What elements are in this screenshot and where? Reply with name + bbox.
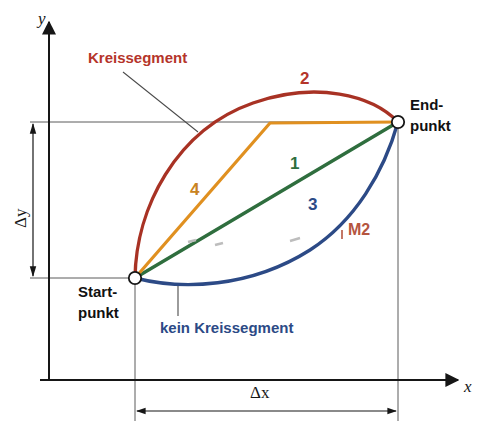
start-point-label-line1: Start- [78, 284, 117, 300]
m2-center-label: M2 [348, 222, 370, 239]
delta-x-label: Δx [250, 384, 269, 402]
construction-lines [30, 122, 398, 421]
path-number-4: 4 [190, 181, 199, 199]
path-number-1: 1 [290, 155, 299, 173]
path-number-3: 3 [308, 196, 317, 214]
end-point-label-line2: punkt [410, 118, 451, 134]
end-point-marker [392, 116, 404, 128]
y-axis-label: y [38, 10, 46, 28]
start-point-marker [129, 272, 141, 284]
diagram-vector-layer [0, 0, 489, 428]
diagram-canvas: y x Δy Δx Kreissegment kein Kreissegment… [0, 0, 489, 428]
kreissegment-label: Kreissegment [88, 50, 187, 66]
line-green-direct [135, 122, 398, 278]
kein-kreissegment-label: kein Kreissegment [160, 320, 293, 336]
curve-direction-ticks [188, 238, 300, 245]
tick-green-mid [215, 243, 223, 245]
curve-red-kreissegment [135, 92, 398, 278]
leader-line-kreissegment [123, 72, 198, 132]
end-point-label-line1: End- [410, 97, 443, 113]
tick-blue-mid [290, 238, 300, 241]
delta-y-label: Δy [12, 209, 30, 228]
x-axis-label: x [464, 378, 472, 396]
path-number-2: 2 [300, 70, 309, 88]
start-point-label-line2: punkt [78, 305, 119, 321]
